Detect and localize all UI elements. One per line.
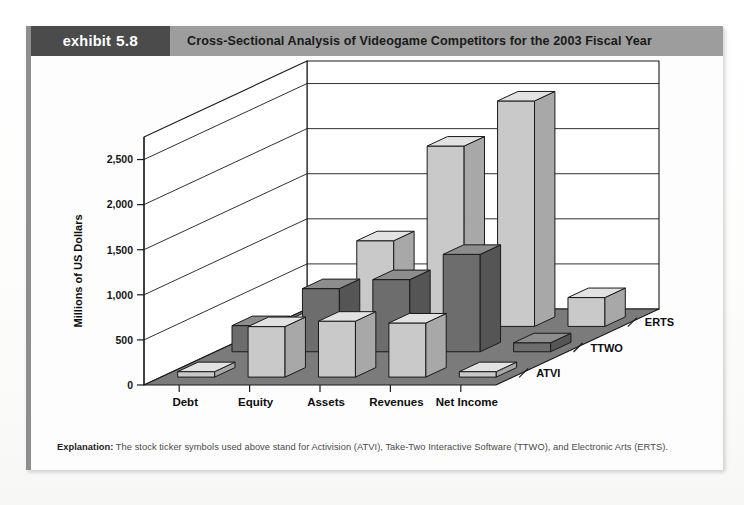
exhibit-badge: exhibit 5.8	[31, 26, 170, 56]
bar-chart-3d: 05001,0001,5002,0002,500Millions of US D…	[31, 56, 723, 438]
bar-atvi-assets[interactable]	[319, 312, 376, 377]
y-axis-tick-label: 1,500	[107, 244, 133, 256]
page-root: exhibit 5.8 Cross-Sectional Analysis of …	[0, 0, 744, 505]
y-axis-tick-label: 0	[127, 379, 133, 391]
depth-axis-series-label: TTWO	[591, 342, 624, 354]
exhibit-title: Cross-Sectional Analysis of Videogame Co…	[170, 26, 723, 56]
exhibit-badge-word: exhibit	[63, 33, 111, 49]
bar-atvi-equity[interactable]	[248, 317, 305, 377]
x-axis-category-label: Debt	[172, 396, 198, 408]
bar-erts-net-income[interactable]	[568, 288, 625, 326]
bar-atvi-revenues[interactable]	[389, 313, 446, 377]
footnote-label: Explanation:	[57, 442, 113, 452]
y-axis-tick-label: 2,000	[107, 198, 133, 210]
x-axis-category-label: Revenues	[369, 396, 423, 408]
bar-erts-revenues[interactable]	[498, 91, 555, 326]
footnote-text: The stock ticker symbols used above stan…	[113, 442, 668, 452]
depth-axis-series-label: ATVI	[536, 367, 560, 379]
y-axis-tick-label: 1,000	[107, 289, 133, 301]
x-axis-category-label: Equity	[238, 396, 274, 408]
exhibit-header: exhibit 5.8 Cross-Sectional Analysis of …	[31, 26, 723, 56]
y-axis-tick-label: 2,500	[107, 153, 133, 165]
y-axis-title: Millions of US Dollars	[72, 214, 84, 327]
chart-canvas: 05001,0001,5002,0002,500Millions of US D…	[31, 56, 723, 438]
y-axis-tick-label: 500	[115, 334, 133, 346]
x-axis-category-label: Net Income	[436, 396, 498, 408]
x-axis-category-label: Assets	[307, 396, 345, 408]
bar-ttwo-revenues[interactable]	[443, 245, 500, 352]
exhibit-card: exhibit 5.8 Cross-Sectional Analysis of …	[26, 26, 723, 470]
depth-axis-series-label: ERTS	[645, 316, 674, 328]
exhibit-badge-number: 5.8	[116, 32, 138, 50]
exhibit-footnote: Explanation: The stock ticker symbols us…	[57, 442, 709, 452]
